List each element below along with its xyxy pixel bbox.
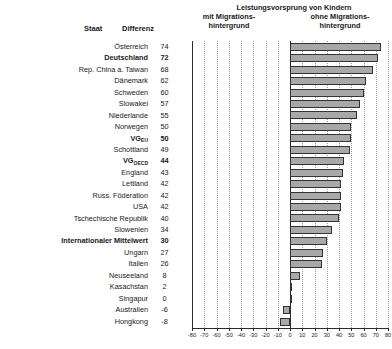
x-tick-label: 0 (288, 332, 291, 338)
gridline (376, 41, 377, 328)
row-value: 8 (150, 270, 179, 281)
x-tick (241, 328, 242, 331)
bar (290, 214, 339, 222)
row-value: 42 (150, 178, 179, 189)
gridline (253, 41, 254, 328)
x-tick-label: 60 (360, 332, 366, 338)
row-value: 26 (150, 258, 179, 269)
x-tick (376, 328, 377, 331)
bar (290, 77, 366, 85)
row-label: Russ. Föderation (0, 190, 148, 201)
row-label: Hongkong (0, 316, 148, 327)
gridline (229, 41, 230, 328)
row-label: Italien (0, 258, 148, 269)
bar (290, 134, 351, 142)
row-value: 72 (150, 52, 179, 63)
x-tick-label: 20 (311, 332, 317, 338)
row-value: 74 (150, 41, 179, 52)
x-tick (217, 328, 218, 331)
row-label: USA (0, 201, 148, 212)
gridline (192, 41, 193, 328)
bar (290, 54, 378, 62)
x-tick-label: -80 (188, 332, 196, 338)
row-label: Neuseeland (0, 270, 148, 281)
row-label: Norwegen (0, 121, 148, 132)
bar (290, 260, 322, 268)
x-tick (302, 328, 303, 331)
row-label: England (0, 167, 148, 178)
x-tick-label: 80 (385, 332, 391, 338)
row-label: Slowakei (0, 98, 148, 109)
x-tick-label: -50 (225, 332, 233, 338)
x-tick (278, 328, 279, 331)
x-tick-label: -10 (274, 332, 282, 338)
migration-performance-gap-chart: Staat Differenz Leistungsvorsprung von K… (0, 0, 392, 349)
x-tick-label: -70 (200, 332, 208, 338)
row-label: Rep. China a. Taiwan (0, 64, 148, 75)
bar (290, 237, 327, 245)
gridline (241, 41, 242, 328)
row-value: 60 (150, 87, 179, 98)
gridline (278, 41, 279, 328)
row-value: 0 (150, 293, 179, 304)
x-tick (364, 328, 365, 331)
row-value: 42 (150, 190, 179, 201)
row-value: 2 (150, 281, 179, 292)
row-value: 68 (150, 64, 179, 75)
bar (290, 43, 381, 51)
row-value: 30 (150, 235, 179, 246)
row-label: Singapur (0, 293, 148, 304)
row-value: 55 (150, 110, 179, 121)
column-header-differenz: Differenz (122, 24, 154, 33)
row-value: 44 (150, 155, 179, 166)
axis-header-right: ohne Migrations- hintergrund (292, 12, 388, 30)
row-label: Schweden (0, 87, 148, 98)
axis-header-left-line1: mit Migrations- (186, 12, 272, 21)
x-tick-label: 40 (336, 332, 342, 338)
row-label: Lettland (0, 178, 148, 189)
bar (290, 249, 323, 257)
row-label: Slowenien (0, 224, 148, 235)
bar (290, 123, 351, 131)
row-value: 27 (150, 247, 179, 258)
bar (283, 306, 290, 314)
x-tick-label: 30 (324, 332, 330, 338)
x-tick-label: 10 (299, 332, 305, 338)
bar (290, 100, 360, 108)
row-value: -6 (150, 304, 179, 315)
row-value: 34 (150, 224, 179, 235)
x-tick (315, 328, 316, 331)
x-tick (351, 328, 352, 331)
x-tick-label: -20 (261, 332, 269, 338)
bar (280, 318, 290, 326)
row-value: 40 (150, 213, 179, 224)
gridline (266, 41, 267, 328)
row-label-subscript: EU (141, 137, 148, 143)
axis-header-right-line1: ohne Migrations- (292, 12, 388, 21)
x-tick (290, 328, 291, 331)
plot-area (192, 41, 388, 328)
row-label: Australien (0, 304, 148, 315)
row-label-subscript: OECD (134, 160, 148, 166)
row-label: Ungarn (0, 247, 148, 258)
bar (290, 111, 357, 119)
row-label: Internationaler Mittelwert (0, 235, 148, 246)
bar (290, 146, 350, 154)
row-value: 57 (150, 98, 179, 109)
x-tick-label: -60 (212, 332, 220, 338)
row-value: 43 (150, 167, 179, 178)
row-label: Österreich (0, 41, 148, 52)
x-tick (229, 328, 230, 331)
row-value: 50 (150, 133, 179, 144)
x-tick-label: -40 (237, 332, 245, 338)
gridline (217, 41, 218, 328)
bar (290, 283, 292, 291)
column-header-staat: Staat (84, 24, 102, 33)
x-tick (253, 328, 254, 331)
bar (290, 169, 343, 177)
bar (290, 157, 344, 165)
row-label: Niederlande (0, 110, 148, 121)
bar (290, 180, 341, 188)
row-value: 62 (150, 75, 179, 86)
row-value: 50 (150, 121, 179, 132)
